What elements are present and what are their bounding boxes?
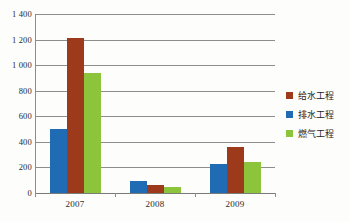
- legend-swatch-icon: [286, 130, 293, 137]
- y-tick-label: 200: [2, 163, 32, 172]
- legend-label: 给水工程: [298, 91, 334, 101]
- bar: [50, 129, 67, 193]
- bar: [164, 187, 181, 193]
- chart-legend: 给水工程排水工程燃气工程: [286, 86, 348, 143]
- x-axis-tick: [35, 193, 36, 197]
- bar: [227, 147, 244, 193]
- bar-group-2007: [35, 14, 115, 193]
- x-category-label: 2007: [35, 199, 115, 209]
- bar-chart: 1 4001 2001 0008006004002000 20072008200…: [0, 0, 349, 222]
- bar-group-2008: [115, 14, 195, 193]
- x-axis-tick: [115, 193, 116, 197]
- y-tick-label: 800: [2, 87, 32, 96]
- legend-label: 排水工程: [298, 110, 334, 120]
- legend-swatch-icon: [286, 111, 293, 118]
- x-axis-tick: [275, 193, 276, 197]
- plot-area: [35, 14, 275, 193]
- legend-item[interactable]: 排水工程: [286, 105, 348, 124]
- x-category-label: 2009: [195, 199, 275, 209]
- x-category-label: 2008: [115, 199, 195, 209]
- y-axis-labels: 1 4001 2001 0008006004002000: [0, 0, 32, 222]
- bar-group-2009: [195, 14, 275, 193]
- y-tick-label: 1 000: [2, 61, 32, 70]
- legend-item[interactable]: 燃气工程: [286, 124, 348, 143]
- bar: [244, 162, 261, 193]
- legend-swatch-icon: [286, 92, 293, 99]
- gridline: [35, 193, 275, 194]
- bar: [130, 181, 147, 193]
- y-tick-label: 400: [2, 138, 32, 147]
- legend-label: 燃气工程: [298, 129, 334, 139]
- y-tick-label: 0: [2, 189, 32, 198]
- legend-item[interactable]: 给水工程: [286, 86, 348, 105]
- y-tick-label: 1 200: [2, 36, 32, 45]
- y-tick-label: 1 400: [2, 10, 32, 19]
- bar: [84, 73, 101, 193]
- bar: [67, 38, 84, 193]
- y-tick-label: 600: [2, 112, 32, 121]
- bar: [147, 185, 164, 193]
- x-axis-tick: [195, 193, 196, 197]
- bar: [210, 164, 227, 193]
